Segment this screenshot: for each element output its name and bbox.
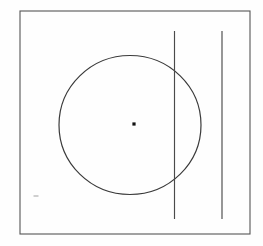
faint-smudge-mark — [34, 195, 39, 197]
circle-center-dot — [132, 122, 135, 125]
line-drawing-canvas — [0, 0, 263, 246]
figure-background — [0, 0, 263, 246]
figure-root — [0, 0, 263, 246]
